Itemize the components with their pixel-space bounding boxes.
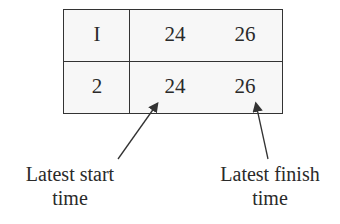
label-latest-finish-line1: Latest finish bbox=[205, 162, 335, 186]
label-latest-start: Latest start time bbox=[10, 162, 130, 210]
label-latest-finish: Latest finish time bbox=[205, 162, 335, 210]
label-latest-start-line2: time bbox=[10, 186, 130, 210]
arrow-latest-finish bbox=[256, 104, 268, 159]
arrow-latest-start bbox=[118, 104, 157, 159]
label-latest-finish-line2: time bbox=[205, 186, 335, 210]
label-latest-start-line1: Latest start bbox=[10, 162, 130, 186]
